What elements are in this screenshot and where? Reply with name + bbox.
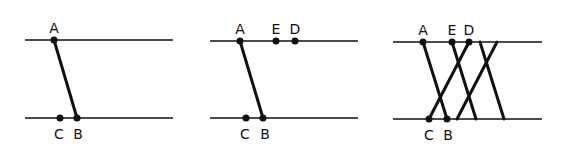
point-e — [273, 38, 280, 45]
point-label-a: A — [49, 20, 59, 36]
point-label-d: D — [290, 21, 301, 37]
point-a — [237, 38, 244, 45]
point-label-b: B — [73, 126, 83, 142]
point-label-a: A — [235, 21, 245, 37]
panel-2: AEDCB — [210, 21, 358, 142]
point-label-e: E — [448, 22, 457, 38]
point-a — [420, 39, 427, 46]
point-c — [243, 115, 250, 122]
point-b — [444, 116, 451, 123]
point-label-d: D — [464, 22, 475, 38]
parallel-lines-diagram: ACBAEDCBAEDCB — [0, 0, 568, 166]
point-label-b: B — [443, 127, 453, 143]
point-e — [449, 39, 456, 46]
point-d — [292, 38, 299, 45]
point-label-b: B — [260, 126, 270, 142]
transversal-segment — [240, 41, 263, 118]
point-d — [466, 39, 473, 46]
panel-1: ACB — [25, 20, 173, 142]
point-c — [57, 115, 64, 122]
point-label-a: A — [418, 22, 428, 38]
panel-3: AEDCB — [393, 22, 542, 143]
point-b — [74, 115, 81, 122]
transversal-segment — [54, 40, 77, 118]
point-label-c: C — [240, 126, 250, 142]
point-label-c: C — [424, 127, 434, 143]
point-c — [426, 116, 433, 123]
point-a — [51, 37, 58, 44]
point-label-e: E — [272, 21, 281, 37]
point-label-c: C — [54, 126, 64, 142]
point-b — [260, 115, 267, 122]
